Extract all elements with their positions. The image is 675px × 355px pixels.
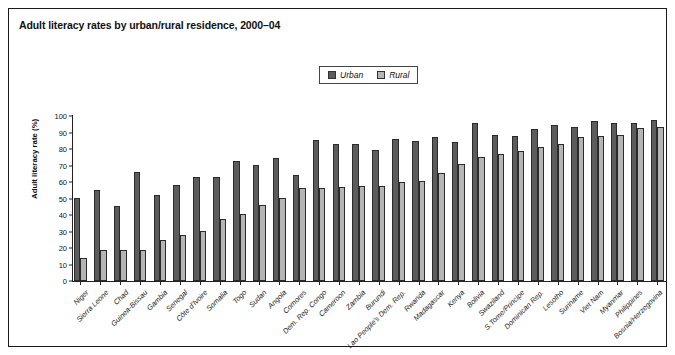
- bar-rural: [200, 231, 206, 281]
- bar-group: [512, 116, 525, 281]
- x-axis-tick-mark: [438, 282, 439, 286]
- bar-group: [392, 116, 405, 281]
- bar-rural: [538, 147, 544, 281]
- y-axis-tick-label: 20: [50, 244, 69, 253]
- bar-group: [571, 116, 584, 281]
- x-axis-tick-mark: [140, 282, 141, 286]
- bar-group: [352, 116, 365, 281]
- bar-group: [631, 116, 644, 281]
- x-axis-tick-mark: [657, 282, 658, 286]
- bar-rural: [399, 182, 405, 281]
- x-axis-tick-mark: [200, 282, 201, 286]
- y-axis-tick-label: 90: [50, 128, 69, 137]
- bar-group: [273, 116, 286, 281]
- y-axis-tick: 70: [50, 161, 72, 170]
- y-axis-tick: 20: [50, 244, 72, 253]
- x-axis-tick-mark: [518, 282, 519, 286]
- x-axis-tick-mark: [478, 282, 479, 286]
- bar-rural: [100, 250, 106, 281]
- bar-rural: [220, 219, 226, 281]
- bar-rural: [438, 173, 444, 281]
- bar-rural: [518, 151, 524, 281]
- bar-group: [432, 116, 445, 281]
- bar-rural: [598, 136, 604, 281]
- bar-group: [313, 116, 326, 281]
- figure-frame: Adult literacy rates by urban/rural resi…: [8, 8, 667, 347]
- y-axis-tick-label: 70: [50, 161, 69, 170]
- bar-group: [233, 116, 246, 281]
- y-axis-tick-label: 80: [50, 145, 69, 154]
- x-axis-label: Sudan: [247, 288, 268, 309]
- legend-item-rural: Rural: [377, 70, 409, 80]
- bar-rural: [160, 240, 166, 281]
- bar-rural: [657, 127, 663, 281]
- bar-group: [591, 116, 604, 281]
- x-axis-tick-mark: [359, 282, 360, 286]
- y-axis-tick: 60: [50, 178, 72, 187]
- x-axis-tick-mark: [419, 282, 420, 286]
- bar-group: [193, 116, 206, 281]
- bar-group: [213, 116, 226, 281]
- bar-group: [74, 116, 87, 281]
- x-axis-tick-mark: [279, 282, 280, 286]
- page-title: Adult literacy rates by urban/rural resi…: [19, 19, 280, 31]
- y-axis-tick: 80: [50, 145, 72, 154]
- x-axis-tick-mark: [319, 282, 320, 286]
- bar-rural: [140, 250, 146, 282]
- x-axis-tick-mark: [339, 282, 340, 286]
- x-axis-tick-mark: [259, 282, 260, 286]
- bar-group: [94, 116, 107, 281]
- y-axis-tick: 40: [50, 211, 72, 220]
- bar-group: [472, 116, 485, 281]
- x-axis-labels: NigerSierra LeoneChadGuinea-BissauGambia…: [72, 286, 666, 355]
- y-axis-tick-label: 100: [50, 112, 69, 121]
- bar-rural: [180, 235, 186, 281]
- bar-rural: [637, 128, 643, 281]
- figure-root: Adult literacy rates by urban/rural resi…: [0, 0, 675, 355]
- y-axis-tick-label: 50: [50, 194, 69, 203]
- x-axis-tick-mark: [299, 282, 300, 286]
- y-axis-tick-label: 40: [50, 211, 69, 220]
- x-axis-tick-mark: [160, 282, 161, 286]
- bar-group: [412, 116, 425, 281]
- x-axis-tick-mark: [538, 282, 539, 286]
- y-axis-tick-label: 0: [50, 277, 69, 286]
- bar-group: [253, 116, 266, 281]
- x-axis-label: Kenya: [445, 288, 466, 309]
- x-axis-tick-mark: [617, 282, 618, 286]
- legend-label-urban: Urban: [340, 70, 363, 80]
- bar-series-container: [72, 116, 666, 281]
- x-axis-tick-mark: [120, 282, 121, 286]
- x-axis-tick-mark: [220, 282, 221, 286]
- x-axis-tick-mark: [498, 282, 499, 286]
- y-axis-tick-label: 60: [50, 178, 69, 187]
- bar-group: [173, 116, 186, 281]
- bar-group: [611, 116, 624, 281]
- bar-group: [154, 116, 167, 281]
- y-axis-tick: 50: [50, 194, 72, 203]
- y-axis-tick-label: 30: [50, 227, 69, 236]
- y-axis-label: Adult literacy rate (%): [30, 119, 39, 199]
- bar-group: [134, 116, 147, 281]
- y-axis-tick: 100: [50, 112, 72, 121]
- bar-rural: [498, 154, 504, 281]
- y-axis-tick: 0: [50, 277, 72, 286]
- bar-group: [551, 116, 564, 281]
- x-axis-tick-mark: [637, 282, 638, 286]
- bar-group: [114, 116, 127, 281]
- x-axis-tick-mark: [180, 282, 181, 286]
- bar-rural: [478, 157, 484, 281]
- x-axis-tick-mark: [578, 282, 579, 286]
- bar-group: [452, 116, 465, 281]
- bar-rural: [279, 198, 285, 281]
- bar-group: [492, 116, 505, 281]
- bar-rural: [458, 164, 464, 281]
- bar-rural: [339, 187, 345, 281]
- bar-rural: [558, 144, 564, 281]
- legend-label-rural: Rural: [389, 70, 409, 80]
- bar-group: [531, 116, 544, 281]
- x-axis-label: Zambia: [344, 288, 368, 312]
- y-axis-tick: 90: [50, 128, 72, 137]
- x-axis-tick-mark: [458, 282, 459, 286]
- bar-group: [651, 116, 664, 281]
